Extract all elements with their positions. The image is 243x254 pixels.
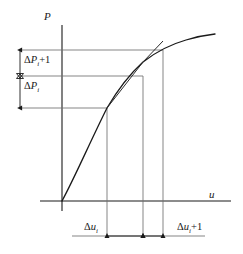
diagram-svg <box>0 0 243 254</box>
delta-symbol: Δ <box>177 221 184 232</box>
y-axis-label: P <box>44 11 51 22</box>
delta-symbol: Δ <box>24 80 31 91</box>
response-curve <box>62 34 215 201</box>
suffix: +1 <box>39 54 50 65</box>
label-delta-p-i: ΔPi <box>24 81 39 92</box>
delta-symbol: Δ <box>24 54 31 65</box>
secant-chord-i <box>107 62 143 108</box>
suffix: +1 <box>191 221 202 232</box>
label-delta-u-i-plus-1: Δui+1 <box>177 222 202 233</box>
delta-symbol: Δ <box>84 221 91 232</box>
secant-chord-i-plus-1 <box>143 41 163 62</box>
subscript: i <box>96 227 98 235</box>
subscript: i <box>37 86 39 94</box>
figure-canvas: P u ΔPi+1 ΔPi Δui Δui+1 <box>0 0 243 254</box>
subscript: i <box>189 227 191 235</box>
label-delta-p-i-plus-1: ΔPi+1 <box>24 55 50 66</box>
label-delta-u-i: Δui <box>84 222 98 233</box>
x-axis-label: u <box>209 189 215 200</box>
subscript: i <box>37 60 39 68</box>
